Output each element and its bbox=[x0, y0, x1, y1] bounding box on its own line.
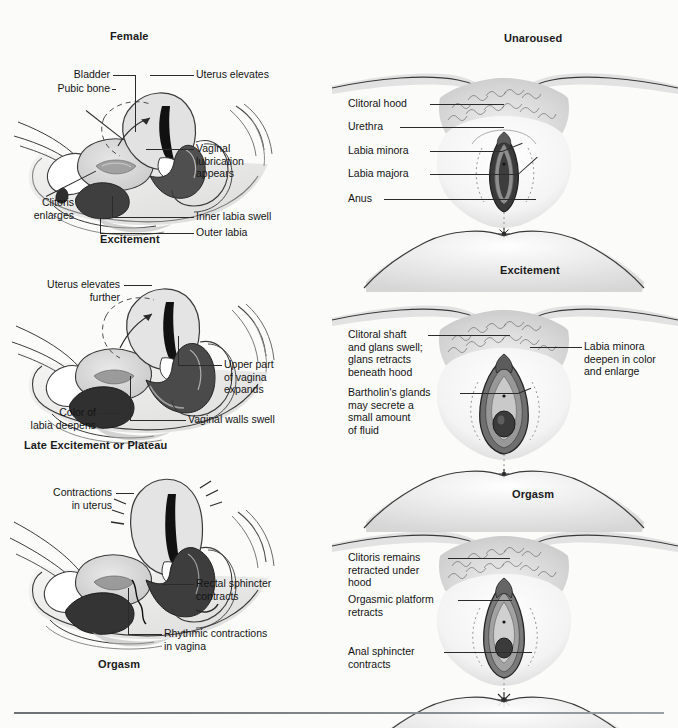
label-pubic-bone: Pubic bone bbox=[14, 82, 110, 95]
leader-orgasmic-platform bbox=[458, 600, 512, 601]
figure-canvas: Female bbox=[0, 0, 678, 728]
panel-sagittal-plateau: Uterus elevates further Upper part of va… bbox=[0, 256, 340, 464]
leader-uterus-further bbox=[124, 285, 152, 286]
leader-anus bbox=[384, 199, 536, 200]
label-bladder: Bladder bbox=[30, 68, 110, 81]
leader-upper-vagina bbox=[178, 365, 222, 366]
panel-heading-female: Female bbox=[110, 30, 149, 42]
leader-vaginal-walls-rise bbox=[130, 376, 131, 421]
leader-labia-minora bbox=[430, 151, 502, 152]
leader-rhythmic bbox=[128, 634, 162, 635]
label-orgasmic-platform-retracts: Orgasmic platform retracts bbox=[348, 593, 434, 618]
leader-anal-sphincter bbox=[444, 652, 532, 653]
label-labia-minora: Labia minora bbox=[348, 144, 409, 157]
leader-bladder bbox=[113, 75, 136, 76]
label-clitoris-remains-retracted: Clitoris remains retracted under hood bbox=[348, 551, 420, 589]
leader-clitoral-shaft bbox=[428, 335, 510, 336]
caption-excitement: Excitement bbox=[100, 233, 160, 245]
leader-uterus-elevates bbox=[150, 75, 194, 76]
panel-heading-unaroused: Unaroused bbox=[504, 32, 562, 44]
label-labia-majora: Labia majora bbox=[348, 167, 409, 180]
label-rhythmic-contractions-in-vagina: Rhythmic contractions in vagina bbox=[164, 627, 267, 652]
leader-bladder-drop bbox=[135, 75, 136, 132]
leader-rectal-sphincter bbox=[162, 584, 194, 585]
panel-sagittal-excitement: Female bbox=[0, 0, 340, 252]
leader-urethra bbox=[400, 127, 504, 128]
label-anal-sphincter-contracts: Anal sphincter contracts bbox=[348, 645, 415, 670]
label-uterus-elevates-further: Uterus elevates further bbox=[10, 278, 120, 303]
label-vaginal-walls-swell: Vaginal walls swell bbox=[188, 413, 275, 426]
leader-labia-minora-deepen bbox=[530, 347, 582, 348]
caption-orgasm-sagittal: Orgasm bbox=[98, 658, 140, 670]
leader-contractions-uterus bbox=[116, 493, 134, 494]
label-anus: Anus bbox=[348, 192, 372, 205]
label-urethra: Urethra bbox=[348, 120, 383, 133]
label-vaginal-lubrication: Vaginal lubrication appears bbox=[196, 142, 244, 180]
label-uterus-elevates: Uterus elevates bbox=[196, 68, 269, 81]
leader-bartholins bbox=[460, 393, 518, 394]
panel-sagittal-orgasm: Contractions in uterus Rectal sphincter … bbox=[0, 466, 340, 681]
leader-clitoris-retracted bbox=[448, 558, 510, 559]
leader-vaginal-lubrication bbox=[146, 149, 194, 150]
label-bartholins-glands: Bartholin's glands may secrete a small a… bbox=[348, 386, 431, 436]
panel-external-orgasm: Orgasm bbox=[332, 468, 678, 708]
external-illustration-excitement bbox=[332, 284, 678, 474]
leader-clitoral-hood bbox=[430, 104, 504, 105]
leader-rhythmic-rise bbox=[128, 588, 129, 635]
label-contractions-in-uterus: Contractions in uterus bbox=[26, 486, 112, 511]
caption-late-excitement-plateau: Late Excitement or Plateau bbox=[24, 439, 167, 451]
label-clitoris-enlarges: Clitoris enlarges bbox=[8, 196, 74, 221]
panel-external-unaroused: Unaroused bbox=[332, 0, 678, 250]
label-rectal-sphincter-contracts: Rectal sphincter contracts bbox=[196, 577, 271, 602]
panel-heading-excitement-external: Excitement bbox=[500, 264, 560, 276]
leader-pubic-bone bbox=[112, 89, 116, 90]
leader-outer-labia-rise bbox=[100, 218, 101, 234]
label-color-of-labia-deepens: Color of labia deepens bbox=[8, 406, 96, 431]
leader-color-labia bbox=[98, 413, 122, 414]
leader-labia-majora bbox=[430, 174, 518, 175]
label-labia-minora-deepen: Labia minora deepen in color and enlarge bbox=[584, 340, 656, 378]
label-inner-labia-swell: Inner labia swell bbox=[196, 210, 271, 223]
panel-heading-orgasm-external: Orgasm bbox=[512, 488, 554, 500]
label-outer-labia: Outer labia bbox=[196, 226, 247, 239]
panel-external-excitement: Excitement bbox=[332, 250, 678, 472]
leader-inner-labia-rise bbox=[112, 196, 113, 218]
leader-upper-vagina-rise bbox=[178, 336, 179, 366]
leader-inner-labia bbox=[112, 217, 194, 218]
label-upper-part-of-vagina-expands: Upper part of vagina expands bbox=[224, 358, 274, 396]
leader-vaginal-walls bbox=[130, 420, 186, 421]
label-clitoral-hood: Clitoral hood bbox=[348, 97, 407, 110]
label-clitoral-shaft-and-glans: Clitoral shaft and glans swell; glans re… bbox=[348, 328, 423, 378]
footer-divider bbox=[14, 712, 664, 714]
